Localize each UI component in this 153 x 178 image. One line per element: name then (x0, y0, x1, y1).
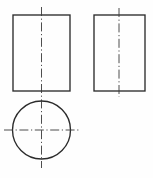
technical-drawing-canvas (0, 0, 153, 178)
side-view-rectangle (94, 15, 145, 91)
orthographic-projection-drawing (0, 0, 153, 178)
